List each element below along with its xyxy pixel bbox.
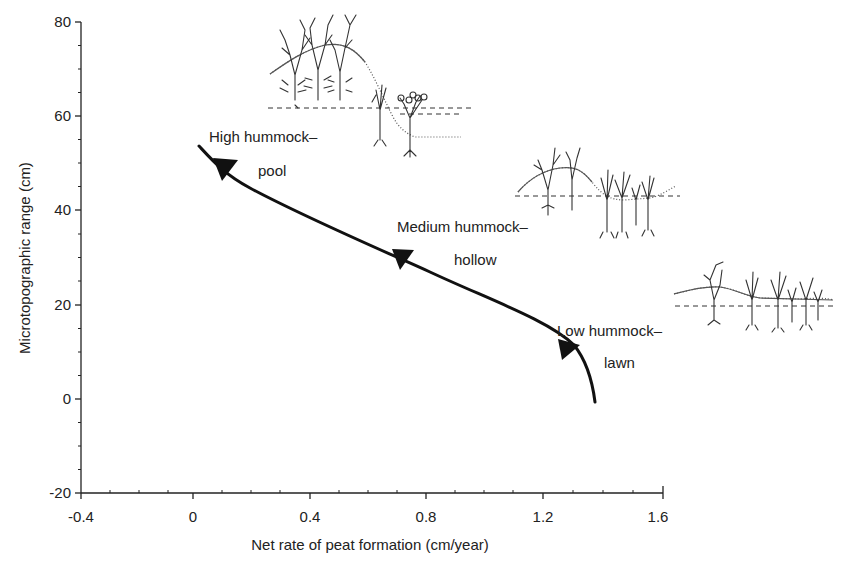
x-tick-label: 1.2 (533, 508, 554, 525)
y-tick-label: -20 (49, 484, 71, 501)
annotation-medium: Medium hummock– hollow (397, 218, 529, 268)
x-tick-label: -0.4 (68, 508, 94, 525)
annotation-label: lawn (604, 354, 635, 371)
annotation-label: Medium hummock– (397, 218, 529, 235)
y-axis: 80 60 40 20 0 -20 Microtopographic range… (16, 13, 81, 501)
x-tick-label: 0 (189, 508, 197, 525)
x-axis: -0.4 0 0.4 0.8 1.2 1.6 Net rate of peat … (68, 486, 668, 553)
y-tick-label: 80 (54, 13, 71, 30)
x-tick-label: 0.4 (300, 508, 321, 525)
annotation-label: High hummock– (209, 128, 318, 145)
annotation-label: pool (258, 162, 286, 179)
arrow-head-icon (392, 249, 414, 270)
x-tick-label: 1.6 (648, 508, 669, 525)
chart: 80 60 40 20 0 -20 Microtopographic range… (0, 0, 843, 567)
x-axis-title: Net rate of peat formation (cm/year) (251, 536, 489, 553)
medium-hummock-illustration (515, 148, 680, 238)
y-tick-label: 40 (54, 201, 71, 218)
annotation-label: hollow (454, 251, 497, 268)
y-tick-label: 0 (63, 390, 71, 407)
y-tick-label: 20 (54, 296, 71, 313)
y-tick-label: 60 (54, 107, 71, 124)
y-axis-title: Microtopographic range (cm) (16, 162, 33, 354)
low-hummock-illustration (674, 262, 833, 332)
trajectory-curve (199, 146, 595, 402)
x-tick-label: 0.8 (416, 508, 437, 525)
annotation-label: Low hummock– (557, 322, 663, 339)
direction-arrows (213, 158, 580, 360)
